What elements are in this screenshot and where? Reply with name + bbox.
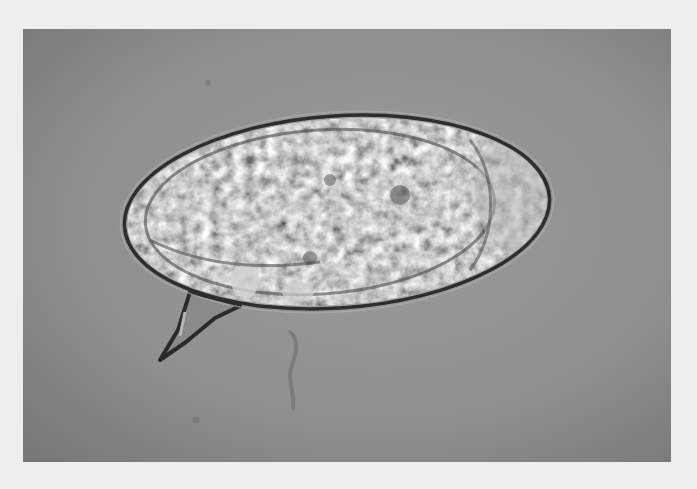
micrograph-frame — [23, 29, 671, 462]
micrograph — [23, 29, 671, 462]
